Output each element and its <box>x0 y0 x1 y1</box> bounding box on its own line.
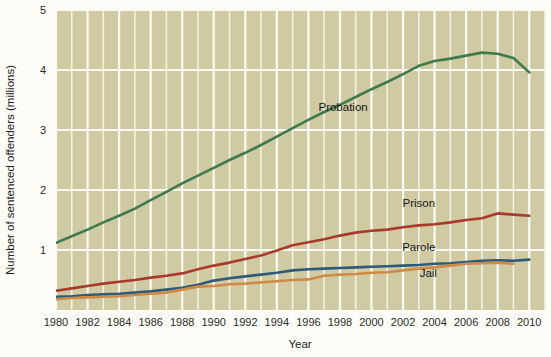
chart-figure: ProbationPrisonParoleJail 19801982198419… <box>0 0 551 357</box>
x-tick-2010: 2010 <box>517 316 541 328</box>
x-tick-1996: 1996 <box>296 316 320 328</box>
x-tick-1998: 1998 <box>328 316 352 328</box>
x-axis-title: Year <box>288 338 311 350</box>
x-tick-1984: 1984 <box>107 316 131 328</box>
x-tick-2000: 2000 <box>359 316 383 328</box>
x-tick-1986: 1986 <box>138 316 162 328</box>
x-tick-1990: 1990 <box>201 316 225 328</box>
y-axis-tick-labels: 12345 <box>40 4 46 256</box>
y-tick-2: 2 <box>40 184 46 196</box>
x-tick-1982: 1982 <box>75 316 99 328</box>
x-tick-2002: 2002 <box>391 316 415 328</box>
line-chart: ProbationPrisonParoleJail 19801982198419… <box>0 0 551 357</box>
x-tick-2004: 2004 <box>422 316 446 328</box>
series-label-probation: Probation <box>318 101 367 113</box>
x-tick-1988: 1988 <box>170 316 194 328</box>
x-axis-tick-labels: 1980198219841986198819901992199419961998… <box>44 316 542 328</box>
x-tick-1980: 1980 <box>44 316 68 328</box>
y-axis-title: Number of sentenced offenders (millions) <box>4 65 16 275</box>
x-tick-2008: 2008 <box>485 316 509 328</box>
y-tick-1: 1 <box>40 244 46 256</box>
series-label-prison: Prison <box>403 197 436 209</box>
y-tick-3: 3 <box>40 124 46 136</box>
series-label-jail: Jail <box>420 267 437 279</box>
x-tick-2006: 2006 <box>454 316 478 328</box>
x-tick-1994: 1994 <box>265 316 289 328</box>
x-tick-1992: 1992 <box>233 316 257 328</box>
series-label-parole: Parole <box>402 241 435 253</box>
y-tick-4: 4 <box>40 64 46 76</box>
y-tick-5: 5 <box>40 4 46 16</box>
